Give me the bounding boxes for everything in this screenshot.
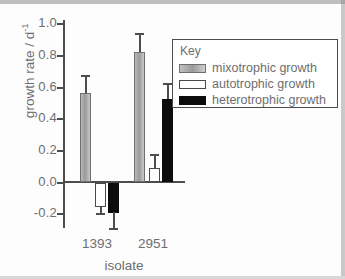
errorbar-1393-heterotrophic-cap bbox=[109, 228, 118, 230]
y-tick-1_0 bbox=[57, 23, 64, 25]
y-axis-title-text: growth rate / d bbox=[22, 32, 37, 118]
bar-1393-autotrophic bbox=[95, 183, 106, 207]
y-tick-label-1_0: 1.0 bbox=[17, 16, 57, 29]
errorbar-1393-mixotrophic-line bbox=[85, 75, 87, 93]
errorbar-2951-mixotrophic-cap bbox=[135, 33, 144, 35]
y-tick-0_4 bbox=[57, 118, 64, 120]
errorbar-2951-autotrophic-line bbox=[154, 154, 156, 168]
y-axis-line bbox=[63, 20, 65, 228]
errorbar-1393-heterotrophic-line bbox=[113, 212, 115, 229]
y-tick-label-0_8: 0.8 bbox=[17, 48, 57, 61]
y-tick-label-0_2: 0.2 bbox=[17, 143, 57, 156]
errorbar-2951-heterotrophic-line bbox=[167, 83, 169, 99]
x-axis-title: isolate bbox=[63, 258, 185, 273]
errorbar-2951-autotrophic-cap bbox=[150, 154, 159, 156]
legend-swatch-autotrophic bbox=[179, 80, 206, 89]
legend-swatch-mixotrophic bbox=[179, 64, 206, 73]
legend-item-mixotrophic: mixotrophic growth bbox=[179, 60, 332, 76]
bar-2951-autotrophic bbox=[149, 168, 160, 182]
y-tick-0_6 bbox=[57, 87, 64, 89]
legend-swatch-heterotrophic bbox=[179, 96, 206, 105]
x-category-label-2951: 2951 bbox=[130, 236, 176, 251]
legend-label-mixotrophic: mixotrophic growth bbox=[212, 61, 317, 75]
errorbar-2951-mixotrophic-line bbox=[139, 33, 141, 52]
legend-title: Key bbox=[180, 44, 332, 58]
x-category-label-1393: 1393 bbox=[74, 236, 120, 251]
legend-box: Key mixotrophic growth autotrophic growt… bbox=[172, 39, 338, 108]
y-tick-label-0_0: 0.0 bbox=[17, 175, 57, 188]
bar-2951-heterotrophic bbox=[162, 99, 173, 182]
y-tick-0_2 bbox=[57, 150, 64, 152]
bar-1393-heterotrophic bbox=[108, 183, 119, 213]
top-border-band bbox=[0, 0, 345, 4]
right-border-band bbox=[341, 0, 345, 279]
figure-canvas: growth rate / d-1 1.0 0.8 0.6 0.4 0.2 0.… bbox=[0, 0, 345, 279]
y-tick-label-0_4: 0.4 bbox=[17, 111, 57, 124]
y-tick-0_8 bbox=[57, 55, 64, 57]
y-tick-label-0_6: 0.6 bbox=[17, 80, 57, 93]
errorbar-2951-heterotrophic-cap bbox=[163, 83, 172, 85]
y-tick-label-neg0_2: -0.2 bbox=[17, 206, 57, 219]
errorbar-1393-mixotrophic-cap bbox=[81, 75, 90, 77]
errorbar-1393-autotrophic-cap bbox=[96, 213, 105, 215]
y-tick-neg0_2 bbox=[57, 213, 64, 215]
bar-1393-mixotrophic bbox=[80, 93, 91, 182]
legend-item-autotrophic: autotrophic growth bbox=[179, 76, 332, 92]
legend-item-heterotrophic: heterotrophic growth bbox=[179, 92, 332, 108]
legend-label-autotrophic: autotrophic growth bbox=[212, 77, 315, 91]
legend-label-heterotrophic: heterotrophic growth bbox=[212, 93, 326, 107]
bar-2951-mixotrophic bbox=[134, 52, 145, 182]
